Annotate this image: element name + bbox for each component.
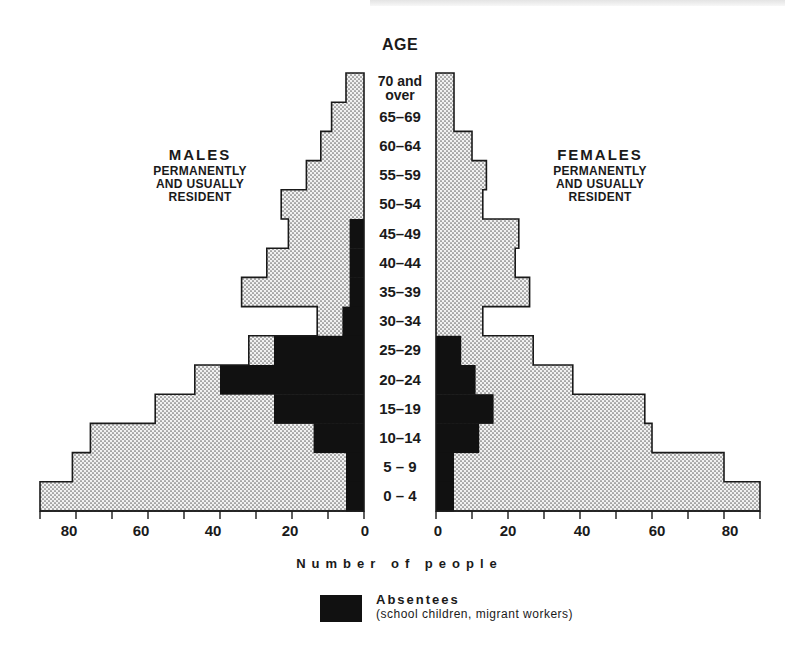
bar-absentee: [350, 277, 364, 307]
bar-resident: [436, 219, 519, 249]
tick-right-20: 20: [488, 522, 528, 539]
legend-title: Absentees: [376, 592, 573, 607]
females-annotation: FEMALES PERMANENTLY AND USUALLY RESIDENT: [530, 146, 670, 204]
female-bars: [436, 73, 760, 512]
males-annotation: MALES PERMANENTLY AND USUALLY RESIDENT: [130, 146, 270, 204]
tick-left-0: 0: [345, 522, 385, 539]
bar-resident: [436, 453, 724, 483]
bar-resident: [242, 277, 364, 307]
tick-right-60: 60: [637, 522, 677, 539]
x-axes: [40, 511, 760, 519]
males-title: MALES: [130, 146, 270, 163]
tick-left-60: 60: [121, 522, 161, 539]
bar-absentee: [274, 394, 364, 424]
age-label: 25–29: [364, 341, 436, 358]
bar-resident: [436, 482, 760, 512]
bar-resident: [436, 161, 486, 191]
bar-resident: [436, 307, 483, 337]
bar-resident: [346, 73, 364, 103]
bar-resident: [436, 190, 483, 220]
bar-resident: [72, 453, 364, 483]
absentees-swatch: [320, 595, 362, 622]
bar-absentee: [346, 453, 364, 483]
bar-absentee: [342, 307, 364, 337]
legend: Absentees (school children, migrant work…: [320, 592, 573, 622]
age-axis-title: AGE: [364, 36, 436, 54]
bar-resident: [332, 102, 364, 132]
age-label: 0 – 4: [364, 487, 436, 504]
bar-resident: [281, 190, 364, 220]
tick-left-80: 80: [49, 522, 89, 539]
tick-left-20: 20: [270, 522, 310, 539]
tick-left-40: 40: [193, 522, 233, 539]
bar-absentee: [436, 336, 461, 366]
bar-absentee: [350, 248, 364, 278]
tick-right-40: 40: [562, 522, 602, 539]
bar-absentee: [436, 423, 479, 453]
age-label: 40–44: [364, 254, 436, 271]
bar-resident: [436, 277, 530, 307]
bar-absentee: [314, 423, 364, 453]
age-label: 20–24: [364, 371, 436, 388]
tick-right-80: 80: [710, 522, 750, 539]
age-label: 5 – 9: [364, 458, 436, 475]
bar-resident: [436, 73, 454, 103]
age-label: 15–19: [364, 400, 436, 417]
bar-resident: [321, 131, 364, 161]
legend-subtitle: (school children, migrant workers): [376, 607, 573, 621]
age-label: 65–69: [364, 108, 436, 125]
bar-resident: [267, 248, 364, 278]
age-label: 70 andover: [364, 74, 436, 102]
age-label: 55–59: [364, 166, 436, 183]
x-axis-title: Number of people: [0, 556, 799, 571]
bar-absentee: [436, 394, 494, 424]
tick-right-0: 0: [418, 522, 458, 539]
females-title: FEMALES: [530, 146, 670, 163]
age-label: 10–14: [364, 429, 436, 446]
bar-absentee: [346, 482, 364, 512]
male-bars: [40, 73, 364, 512]
age-label: 35–39: [364, 283, 436, 300]
age-label: 50–54: [364, 195, 436, 212]
bar-absentee: [436, 482, 454, 512]
bar-absentee: [436, 453, 454, 483]
bar-absentee: [274, 336, 364, 366]
bar-absentee: [436, 365, 476, 395]
bar-resident: [436, 131, 472, 161]
bar-resident: [436, 102, 454, 132]
bar-resident: [40, 482, 364, 512]
bar-absentee: [220, 365, 364, 395]
bar-absentee: [350, 219, 364, 249]
bar-resident: [436, 248, 515, 278]
age-label: 30–34: [364, 312, 436, 329]
age-label: 60–64: [364, 137, 436, 154]
bar-resident: [306, 161, 364, 191]
age-label: 45–49: [364, 225, 436, 242]
